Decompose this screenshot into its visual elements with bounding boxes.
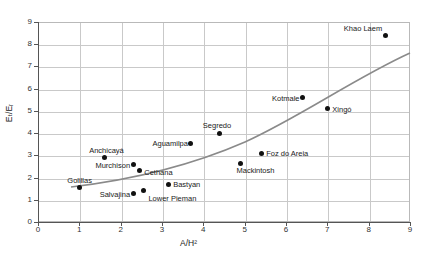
gridline-horizontal [39, 156, 409, 157]
y-axis-tick [34, 89, 38, 90]
gridline-horizontal [39, 67, 409, 68]
x-axis-title: A/H² [180, 238, 197, 248]
y-axis-tick [34, 178, 38, 179]
gridline-horizontal [39, 112, 409, 113]
x-axis-tick-label: 7 [317, 225, 337, 234]
x-axis-tick-label: 3 [152, 225, 172, 234]
y-axis-tick-label: 3 [18, 150, 32, 159]
x-axis-title-text: A/H² [180, 238, 197, 248]
data-point-label: Lower Pieman [148, 194, 196, 203]
x-axis-tick-label: 1 [69, 225, 89, 234]
data-point-label: Foz do Areia [266, 149, 308, 158]
y-axis-tick-label: 8 [18, 39, 32, 48]
gridline-vertical [328, 23, 329, 221]
data-point-label: Murchison [86, 161, 130, 170]
data-point[interactable] [131, 191, 136, 196]
y-axis-tick-label: 4 [18, 128, 32, 137]
x-axis-tick-label: 8 [359, 225, 379, 234]
y-axis-tick-label: 1 [18, 195, 32, 204]
y-axis-tick-label: 9 [18, 17, 32, 26]
gridline-horizontal [39, 201, 409, 202]
data-point-label: Golillas [67, 176, 76, 185]
gridline-vertical [163, 23, 164, 221]
data-point-label: Salvajina [95, 190, 130, 199]
x-axis-tick-label: 2 [111, 225, 131, 234]
gridline-vertical [370, 23, 371, 221]
gridline-vertical [287, 23, 288, 221]
data-point[interactable] [259, 151, 264, 156]
scatter-chart-figure: A/H² Eₜ/Eᵣ 01234567890123456789Khao Laem… [0, 0, 423, 255]
y-axis-tick [34, 155, 38, 156]
gridline-horizontal [39, 45, 409, 46]
data-point[interactable] [166, 182, 171, 187]
data-point-label: Khao Laem [339, 24, 382, 33]
y-axis-tick-label: 5 [18, 106, 32, 115]
x-axis-tick-label: 6 [276, 225, 296, 234]
y-axis-tick-label: 0 [18, 217, 32, 226]
y-axis-line [38, 22, 39, 223]
data-point-label: Mackintosh [237, 166, 238, 175]
gridline-horizontal [39, 179, 409, 180]
x-axis-tick-label: 0 [28, 225, 48, 234]
y-axis-tick [34, 44, 38, 45]
data-point[interactable] [238, 161, 243, 166]
data-point-label: Anchicayá [89, 146, 101, 155]
y-axis-title: Eₜ/Eᵣ [4, 91, 14, 135]
data-point[interactable] [102, 155, 107, 160]
y-axis-tick [34, 111, 38, 112]
y-axis-tick-label: 6 [18, 84, 32, 93]
gridline-vertical [246, 23, 247, 221]
gridline-horizontal [39, 134, 409, 135]
y-axis-tick [34, 66, 38, 67]
data-point[interactable] [383, 33, 388, 38]
x-axis-tick-label: 4 [193, 225, 213, 234]
data-point-label: Kotmale [263, 94, 300, 103]
y-axis-tick [34, 22, 38, 23]
x-axis-tick-label: 5 [235, 225, 255, 234]
data-point-label: Aguamilpa [143, 139, 188, 148]
gridline-horizontal [39, 90, 409, 91]
y-axis-tick [34, 200, 38, 201]
data-point-label: Bastyan [173, 180, 200, 189]
y-axis-tick [34, 133, 38, 134]
data-point[interactable] [77, 185, 82, 190]
data-point[interactable] [131, 162, 136, 167]
y-axis-tick-label: 7 [18, 61, 32, 70]
y-axis-tick [34, 222, 38, 223]
x-axis-tick-label: 9 [400, 225, 420, 234]
y-axis-title-text: Eₜ/Eᵣ [4, 104, 14, 122]
data-point-label: Segredo [203, 121, 217, 130]
data-point[interactable] [325, 106, 330, 111]
y-axis-tick-label: 2 [18, 173, 32, 182]
x-axis-line [38, 222, 411, 223]
data-point-label: Cethana [144, 168, 172, 177]
data-point-label: Xingó [332, 105, 351, 114]
gridline-vertical [80, 23, 81, 221]
